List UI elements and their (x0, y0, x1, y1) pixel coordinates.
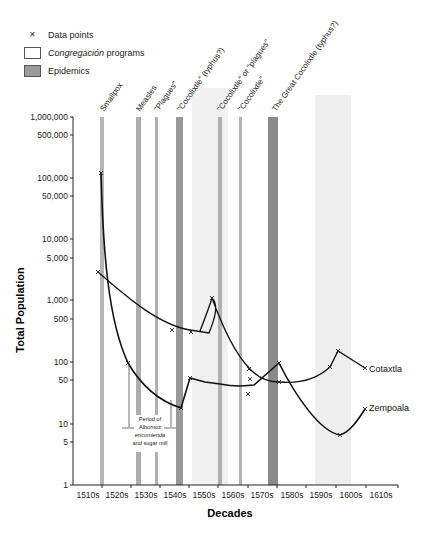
x-tick: 1610s (369, 490, 392, 500)
epidemic-bands (100, 117, 278, 485)
y-tick: 500 (54, 314, 68, 324)
x-tick: 1520s (105, 490, 128, 500)
x-tick: 1580s (280, 490, 303, 500)
x-tick: 1550s (192, 490, 215, 500)
y-tick: 50 (59, 375, 69, 385)
x-tick: 1570s (250, 490, 273, 500)
svg-text:Albornoz: Albornoz (139, 424, 161, 430)
y-tick: 1,000 (47, 295, 69, 305)
y-tick: 50,000 (42, 191, 68, 201)
y-tick: 100,000 (37, 173, 68, 183)
y-tick: 5,000 (47, 253, 69, 263)
y-tick: 100 (54, 357, 68, 367)
x-tick: 1560s (221, 490, 244, 500)
series-label-cotaxtla: Cotaxtla (369, 364, 402, 374)
x-tick: 1600s (339, 490, 362, 500)
x-tick: 1540s (163, 490, 186, 500)
y-tick: 500,000 (37, 130, 68, 140)
svg-text:and sugar mill: and sugar mill (133, 440, 168, 446)
x-tick: 1530s (134, 490, 157, 500)
chart: 1,000,000 500,000 100,000 50,000 10,000 … (0, 0, 426, 538)
svg-text:encomienda: encomienda (135, 432, 165, 438)
y-tick: 10,000 (42, 234, 68, 244)
y-axis: 1,000,000 500,000 100,000 50,000 10,000 … (30, 112, 73, 490)
x-axis-title: Decades (207, 507, 252, 519)
albornoz-annotation: Period of Albornoz encomienda and sugar … (122, 362, 176, 452)
y-axis-title: Total Population (14, 267, 26, 353)
y-tick: 1 (63, 480, 68, 490)
y-tick: 5 (63, 437, 68, 447)
y-tick: 1,000,000 (30, 112, 68, 122)
svg-text:Period of: Period of (139, 416, 162, 422)
x-tick: 1590s (309, 490, 332, 500)
x-tick: 1510s (76, 490, 99, 500)
x-axis: 1510s 1520s 1530s 1540s 1550s 1560s 1570… (73, 485, 398, 500)
y-tick: 10 (59, 419, 69, 429)
epidemic-label: Smallpox (98, 81, 124, 113)
series-label-zempoala: Zempoala (369, 403, 409, 413)
